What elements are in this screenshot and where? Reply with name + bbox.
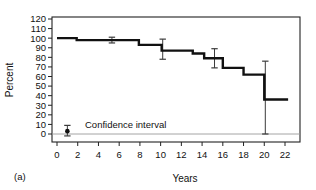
y-tick-label: 50 [35, 80, 46, 91]
y-tick-label: 20 [35, 109, 46, 120]
figure-panel-a: 0102030405060708090100110120 02468101214… [0, 0, 316, 190]
x-tick-label: 6 [117, 149, 122, 160]
y-tick-label: 40 [35, 90, 46, 101]
x-tick-label: 10 [155, 149, 166, 160]
y-tick-label: 0 [41, 128, 46, 139]
y-tick-label: 60 [35, 71, 46, 82]
x-tick-label: 22 [280, 149, 291, 160]
x-tick-label: 4 [96, 149, 101, 160]
y-tick-label: 80 [35, 52, 46, 63]
x-axis-title: Years [172, 173, 197, 184]
survival-curve-chart: 0102030405060708090100110120 02468101214… [0, 0, 316, 190]
x-tick-label: 0 [54, 149, 59, 160]
y-tick-label: 10 [35, 119, 46, 130]
y-tick-label: 100 [30, 33, 46, 44]
x-tick-label: 20 [259, 149, 270, 160]
y-tick-label: 120 [30, 13, 46, 24]
y-tick-label: 90 [35, 42, 46, 53]
y-tick-label: 110 [31, 23, 46, 34]
legend-label: Confidence interval [85, 119, 166, 130]
y-tick-label: 30 [35, 100, 46, 111]
x-tick-label: 16 [218, 149, 229, 160]
x-tick-label: 8 [137, 149, 142, 160]
x-tick-label: 12 [176, 149, 187, 160]
y-axis-title: Percent [4, 63, 15, 98]
x-tick-label: 14 [197, 149, 208, 160]
x-tick-label: 2 [75, 149, 80, 160]
panel-label: (a) [14, 171, 26, 182]
x-tick-label: 18 [238, 149, 249, 160]
chart-background [0, 0, 316, 190]
y-tick-label: 70 [35, 61, 46, 72]
